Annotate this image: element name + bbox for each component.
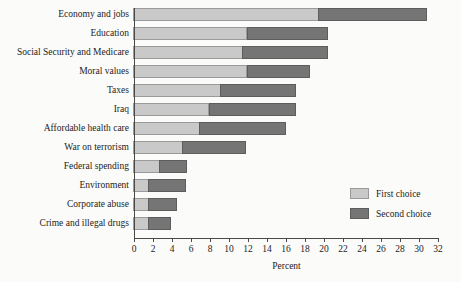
bar-row: Taxes [134, 84, 296, 97]
bar-segment-first-choice [133, 65, 247, 78]
bar-row: Economy and jobs [134, 8, 427, 21]
x-tick-label: 20 [319, 244, 329, 254]
x-tick [172, 238, 173, 242]
x-tick-label: 16 [281, 244, 291, 254]
x-tick [343, 238, 344, 242]
x-tick-label: 6 [189, 244, 194, 254]
chart-legend: First choice Second choice [350, 186, 431, 226]
category-label: Taxes [0, 84, 129, 97]
x-tick-label: 26 [376, 244, 386, 254]
bar-segment-first-choice [133, 198, 148, 211]
bar-segment-first-choice [133, 27, 247, 40]
x-tick-label: 28 [395, 244, 405, 254]
category-label: Social Security and Medicare [0, 46, 129, 59]
bar-segment-first-choice [133, 141, 182, 154]
category-label: Education [0, 27, 129, 40]
x-tick [362, 238, 363, 242]
bar-segment-second-choice [220, 84, 296, 97]
bar-row: Federal spending [134, 160, 187, 173]
bar-segment-second-choice [247, 65, 311, 78]
bar-row: Environment [134, 179, 186, 192]
x-tick [267, 238, 268, 242]
x-tick [305, 238, 306, 242]
x-tick-label: 24 [357, 244, 367, 254]
bar-segment-second-choice [148, 217, 171, 230]
bar-row: Corporate abuse [134, 198, 177, 211]
x-tick [438, 238, 439, 242]
y-axis-line [134, 8, 135, 238]
category-label: Iraq [0, 103, 129, 116]
bar-segment-first-choice [133, 122, 200, 135]
bar-segment-first-choice [133, 179, 148, 192]
bar-segment-second-choice [148, 198, 177, 211]
x-tick-label: 14 [262, 244, 272, 254]
category-label: Crime and illegal drugs [0, 217, 129, 230]
bar-segment-first-choice [133, 84, 220, 97]
bar-row: War on terrorism [134, 141, 246, 154]
category-label: Federal spending [0, 160, 129, 173]
bar-segment-second-choice [199, 122, 285, 135]
legend-item-second-choice: Second choice [350, 206, 431, 221]
category-label: Economy and jobs [0, 8, 129, 21]
bar-row: Social Security and Medicare [134, 46, 328, 59]
x-tick [134, 238, 135, 242]
legend-label-second-choice: Second choice [376, 209, 431, 219]
bar-row: Education [134, 27, 328, 40]
legend-label-first-choice: First choice [376, 189, 421, 199]
legend-item-first-choice: First choice [350, 186, 431, 201]
bar-segment-second-choice [242, 46, 328, 59]
bar-segment-second-choice [159, 160, 187, 173]
category-label: Moral values [0, 65, 129, 78]
x-tick-label: 32 [433, 244, 443, 254]
category-label: Affordable health care [0, 122, 129, 135]
bar-segment-first-choice [133, 160, 160, 173]
x-tick-label: 0 [132, 244, 137, 254]
legend-swatch-first-choice [350, 188, 369, 199]
bar-segment-first-choice [133, 103, 209, 116]
x-tick [381, 238, 382, 242]
bar-segment-second-choice [209, 103, 296, 116]
x-tick-label: 10 [224, 244, 234, 254]
category-label: Environment [0, 179, 129, 192]
x-tick-label: 18 [300, 244, 310, 254]
x-tick [210, 238, 211, 242]
x-tick [248, 238, 249, 242]
category-label: Corporate abuse [0, 198, 129, 211]
x-tick-label: 4 [170, 244, 175, 254]
chart-container: Economy and jobsEducationSocial Security… [0, 0, 461, 282]
x-tick-label: 8 [208, 244, 213, 254]
bar-row: Iraq [134, 103, 296, 116]
bar-row: Moral values [134, 65, 310, 78]
bar-segment-second-choice [182, 141, 246, 154]
x-tick [419, 238, 420, 242]
bar-segment-first-choice [133, 217, 148, 230]
bar-segment-second-choice [148, 179, 186, 192]
x-tick [229, 238, 230, 242]
x-tick-label: 22 [338, 244, 348, 254]
category-label: War on terrorism [0, 141, 129, 154]
x-tick-label: 12 [243, 244, 253, 254]
x-axis-title: Percent [134, 261, 439, 271]
x-tick [191, 238, 192, 242]
bar-segment-first-choice [133, 8, 318, 21]
bar-segment-first-choice [133, 46, 242, 59]
bar-row: Affordable health care [134, 122, 286, 135]
bar-segment-second-choice [318, 8, 427, 21]
x-tick [153, 238, 154, 242]
x-tick-label: 30 [414, 244, 424, 254]
x-tick [324, 238, 325, 242]
bar-segment-second-choice [247, 27, 328, 40]
x-tick [286, 238, 287, 242]
bar-row: Crime and illegal drugs [134, 217, 171, 230]
x-tick-label: 2 [151, 244, 156, 254]
legend-swatch-second-choice [350, 208, 369, 219]
x-tick [400, 238, 401, 242]
